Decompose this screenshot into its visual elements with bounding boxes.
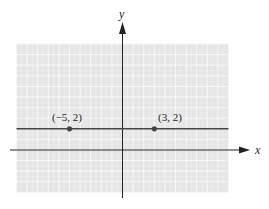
y-axis-arrow-icon bbox=[119, 22, 126, 34]
point-label-neg5-2: (−5, 2) bbox=[52, 111, 82, 124]
data-point bbox=[67, 126, 72, 131]
y-axis-label: y bbox=[118, 7, 125, 21]
x-axis-arrow-icon bbox=[239, 147, 250, 154]
point-label-3-2: (3, 2) bbox=[158, 111, 182, 124]
x-axis-label: x bbox=[254, 143, 261, 157]
data-point bbox=[152, 126, 157, 131]
coordinate-plane: x y (−5, 2) (3, 2) bbox=[0, 0, 269, 209]
